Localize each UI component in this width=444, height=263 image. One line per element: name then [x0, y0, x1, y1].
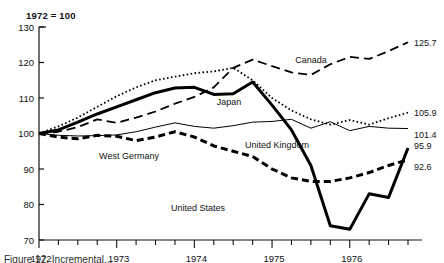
x-axis-year-label: 1974: [186, 253, 207, 263]
figure-container: 1972 = 100 130120110100908070 1972197319…: [0, 0, 444, 263]
line-chart-svg: 130120110100908070 19721973197419751976 …: [0, 0, 444, 263]
y-axis-tick-label: 80: [23, 199, 34, 210]
y-axis-tick-label: 70: [23, 235, 34, 246]
end-label-united-states: 95.9: [414, 141, 432, 151]
x-axis-year-label: 1976: [341, 253, 362, 263]
x-axis-year-label: 1975: [263, 253, 284, 263]
y-axis-tick-label: 130: [18, 22, 34, 33]
series-label-united-states: United States: [171, 203, 226, 213]
end-label-west-germany: 92.6: [414, 162, 432, 172]
series-group: [39, 42, 408, 229]
y-axis-tick-label: 120: [18, 57, 34, 68]
series-label-japan: Japan: [217, 97, 242, 107]
figure-caption: Figure 12. Incremental...: [4, 254, 112, 263]
y-axis-tick-label: 90: [23, 164, 34, 175]
series-label-canada: Canada: [295, 55, 327, 65]
series-line-canada: [39, 42, 408, 133]
end-label-canada: 125.7: [414, 38, 437, 48]
end-value-label-group: 125.7105.9101.495.992.6: [414, 38, 437, 173]
series-line-west-germany: [39, 132, 408, 182]
series-label-united-kingdom: United Kingdom: [245, 140, 309, 150]
end-label-japan: 105.9: [414, 108, 437, 118]
series-line-united-kingdom: [39, 119, 408, 136]
end-label-united-kingdom: 101.4: [414, 130, 437, 140]
y-axis-tick-label: 100: [18, 128, 34, 139]
series-label-west-germany: West Germany: [99, 151, 159, 161]
y-axis-tick-label: 110: [19, 93, 34, 104]
